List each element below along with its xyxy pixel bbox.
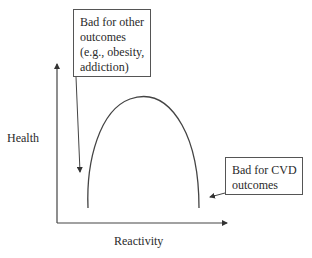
annotation-box-cvd-outcomes: Bad for CVD outcomes [225, 157, 303, 195]
inverted-u-curve [88, 97, 199, 208]
annotation-line: (e.g., obesity, [80, 45, 144, 60]
annotation-line: outcomes [80, 30, 144, 45]
annotation-line: addiction) [80, 60, 144, 75]
x-axis-label: Reactivity [114, 234, 163, 248]
annotation-box-other-outcomes: Bad for other outcomes (e.g., obesity, a… [73, 9, 151, 77]
leader-arrow-cvd-outcomes [210, 193, 225, 197]
annotation-line: outcomes [232, 178, 296, 193]
annotation-line: Bad for other [80, 15, 144, 30]
y-axis-label: Health [7, 131, 39, 145]
diagram-graphics [0, 0, 312, 258]
diagram-canvas: Health Reactivity Bad for other outcomes… [0, 0, 312, 258]
leader-arrow-other-outcomes [76, 77, 80, 172]
annotation-line: Bad for CVD [232, 163, 296, 178]
